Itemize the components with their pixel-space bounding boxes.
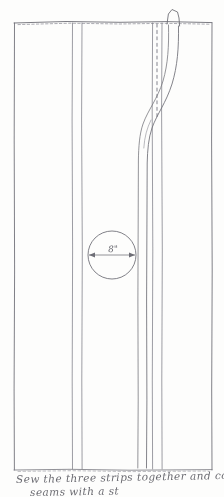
seam-left: [72, 23, 82, 469]
seam-right: [152, 23, 162, 469]
diameter-arrowhead-left: [89, 252, 95, 257]
seam-right-line-b: [162, 23, 163, 469]
panel-top-edge: [14, 22, 212, 24]
sketch-page: 8" Sew the three strips together and cov…: [0, 0, 224, 497]
drape-inner-line: [138, 25, 169, 468]
draped-strip-curve: [138, 25, 179, 468]
seam-right-line-a: [152, 23, 153, 469]
seam-left-line-a: [72, 23, 73, 469]
panel-right-edge: [212, 23, 213, 470]
dimension-circle-group: [88, 231, 136, 279]
panel-left-edge: [14, 23, 15, 470]
seam-left-line-b: [82, 23, 83, 469]
bottom-stitch-line: [18, 471, 208, 472]
panel-bottom-edge: [14, 469, 212, 470]
top-tab-outline: [167, 10, 180, 27]
diameter-arrowhead-right: [129, 252, 135, 257]
diameter-label: 8": [100, 244, 126, 255]
top-tab: [167, 10, 180, 27]
top-stitch-line: [18, 23, 209, 24]
